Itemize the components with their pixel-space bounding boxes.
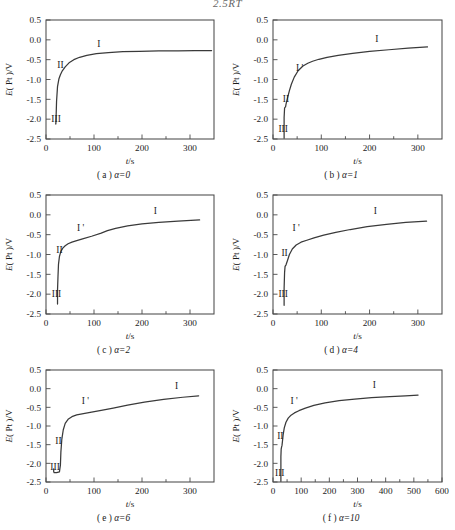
y-tick-label-f-6: -2.5: [253, 477, 268, 487]
panel-caption-index-e: ( e ): [97, 513, 114, 523]
y-tick-label-d-4: -1.5: [253, 270, 268, 280]
y-tick-label-b-3: -1.0: [253, 75, 268, 85]
y-tick-label-f-5: -2.0: [253, 459, 268, 469]
svg-text:E( Pt )/V: E( Pt )/V: [4, 63, 14, 98]
region-label-III-b: III: [278, 124, 288, 134]
region-label-I-b: I: [375, 34, 378, 44]
y-axis-title-e: E( Pt )/V: [4, 409, 14, 444]
region-label-I-prime-f: I ': [290, 396, 298, 406]
y-tick-label-c-0: 0.5: [30, 190, 42, 200]
y-tick-label-f-2: -0.5: [253, 403, 268, 413]
y-axis-title-c: E( Pt )/V: [4, 238, 14, 273]
y-tick-label-c-6: -2.5: [26, 309, 41, 319]
chart-panel-a: 0.50.0-0.5-1.0-1.5-2.0-2.50100200300E( P…: [0, 12, 227, 187]
y-axis-title-a: E( Pt )/V: [4, 63, 14, 98]
y-tick-label-e-4: -1.5: [26, 440, 41, 450]
x-tick-label-c-2: 200: [135, 318, 149, 328]
x-tick-label-b-2: 200: [363, 143, 377, 153]
data-curve-a: [56, 51, 212, 124]
x-tick-label-e-1: 100: [87, 486, 101, 496]
x-axis-title-f: t/s: [353, 499, 362, 509]
y-tick-label-b-1: 0.0: [257, 35, 269, 45]
chart-canvas-d: 0.50.0-0.5-1.0-1.5-2.0-2.50100200300E( P…: [227, 187, 455, 362]
chart-panel-d: 0.50.0-0.5-1.0-1.5-2.0-2.50100200300E( P…: [227, 187, 455, 362]
panel-caption-alpha-a: α=0: [114, 170, 130, 180]
region-label-I-c: I: [154, 206, 157, 216]
region-label-I-prime-c: I ': [77, 223, 85, 233]
y-tick-label-b-0: 0.5: [257, 15, 269, 25]
region-label-II-f: II: [277, 431, 283, 441]
region-label-I-prime-d: I ': [293, 223, 301, 233]
panel-caption-d: ( d ) α=4: [227, 345, 455, 355]
y-tick-label-e-6: -2.5: [26, 477, 41, 487]
chart-canvas-a: 0.50.0-0.5-1.0-1.5-2.0-2.50100200300E( P…: [0, 12, 227, 187]
x-tick-label-f-3: 300: [351, 486, 365, 496]
plot-frame-e: [46, 370, 214, 482]
data-curve-f: [281, 395, 418, 481]
x-tick-label-d-0: 0: [271, 318, 276, 328]
x-tick-label-f-2: 200: [322, 486, 336, 496]
x-tick-label-a-1: 100: [87, 143, 101, 153]
x-tick-label-b-0: 0: [271, 143, 276, 153]
x-axis-title-a: t/s: [126, 156, 135, 166]
page-header-fragment: 2.5RT: [0, 0, 455, 7]
svg-text:E( Pt )/V: E( Pt )/V: [231, 238, 241, 273]
x-tick-label-b-1: 100: [314, 143, 328, 153]
panel-caption-index-c: ( c ): [97, 345, 114, 355]
x-tick-label-c-3: 300: [183, 318, 197, 328]
data-curve-e: [54, 396, 199, 473]
y-tick-label-d-0: 0.5: [257, 190, 269, 200]
chart-panel-f: 0.50.0-0.5-1.0-1.5-2.0-2.501002003004005…: [227, 362, 455, 530]
x-tick-label-f-5: 500: [407, 486, 421, 496]
x-tick-label-e-2: 200: [135, 486, 149, 496]
plot-frame-c: [46, 195, 214, 314]
panel-caption-alpha-e: α=6: [114, 513, 130, 523]
x-tick-label-f-1: 100: [294, 486, 308, 496]
region-label-III-e: III: [50, 462, 60, 472]
region-label-III-f: III: [275, 468, 285, 478]
x-tick-label-a-0: 0: [44, 143, 49, 153]
svg-text:E( Pt )/V: E( Pt )/V: [231, 409, 241, 444]
y-tick-label-e-5: -2.0: [26, 459, 41, 469]
svg-text:E( Pt )/V: E( Pt )/V: [4, 238, 14, 273]
x-axis-title-e: t/s: [126, 499, 135, 509]
x-tick-label-a-2: 200: [135, 143, 149, 153]
panel-caption-e: ( e ) α=6: [0, 513, 227, 523]
x-tick-label-f-4: 400: [379, 486, 393, 496]
x-tick-label-d-1: 100: [314, 318, 328, 328]
panel-caption-a: ( a ) α=0: [0, 170, 227, 180]
x-tick-label-c-0: 0: [44, 318, 49, 328]
y-tick-label-a-1: 0.0: [30, 35, 42, 45]
panel-caption-index-f: ( f ): [323, 513, 339, 523]
region-label-II-b: II: [283, 94, 289, 104]
panel-caption-index-b: ( b ): [324, 170, 342, 180]
y-tick-label-d-1: 0.0: [257, 210, 269, 220]
y-tick-label-f-0: 0.5: [257, 365, 269, 375]
y-tick-label-a-3: -1.0: [26, 75, 41, 85]
region-label-II-e: II: [55, 436, 61, 446]
region-label-II-a: II: [57, 60, 63, 70]
y-tick-label-f-3: -1.0: [253, 421, 268, 431]
panel-caption-index-a: ( a ): [97, 170, 114, 180]
x-tick-label-e-3: 300: [183, 486, 197, 496]
plot-frame-f: [273, 370, 442, 482]
y-tick-label-c-3: -1.0: [26, 250, 41, 260]
region-label-III-a: III: [51, 114, 61, 124]
region-label-II-d: II: [281, 248, 287, 258]
region-label-I-a: I: [97, 39, 100, 49]
x-tick-label-c-1: 100: [87, 318, 101, 328]
x-axis-title-b: t/s: [353, 156, 362, 166]
panel-caption-f: ( f ) α=10: [227, 513, 455, 523]
y-axis-title-b: E( Pt )/V: [231, 63, 241, 98]
x-tick-label-d-3: 300: [411, 318, 425, 328]
plot-frame-a: [46, 20, 214, 139]
chart-panel-c: 0.50.0-0.5-1.0-1.5-2.0-2.50100200300E( P…: [0, 187, 227, 362]
plot-frame-d: [273, 195, 442, 314]
plot-frame-b: [273, 20, 442, 139]
figure-panel-grid: 0.50.0-0.5-1.0-1.5-2.0-2.50100200300E( P…: [0, 12, 455, 530]
y-tick-label-a-2: -0.5: [26, 55, 41, 65]
y-tick-label-a-4: -1.5: [26, 95, 41, 105]
x-tick-label-e-0: 0: [44, 486, 49, 496]
y-tick-label-e-1: 0.0: [30, 384, 42, 394]
x-tick-label-a-3: 300: [183, 143, 197, 153]
